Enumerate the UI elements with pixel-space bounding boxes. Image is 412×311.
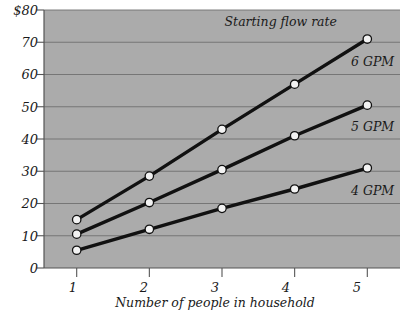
y-tick-label-80: $80 xyxy=(13,3,38,18)
data-point-marker xyxy=(290,185,298,193)
x-axis-title: Number of people in household xyxy=(114,295,315,310)
data-point-marker xyxy=(290,80,298,88)
data-point-marker xyxy=(72,246,80,254)
y-tick-label-70: 70 xyxy=(21,35,38,50)
starting-flow-rate-annotation: Starting flow rate xyxy=(225,14,337,29)
x-tick-label-5: 5 xyxy=(353,280,361,295)
y-tick-label-60: 60 xyxy=(21,67,38,82)
data-point-marker xyxy=(363,101,371,109)
data-point-marker xyxy=(72,215,80,223)
y-tick-marks xyxy=(37,10,44,268)
data-point-marker xyxy=(145,198,153,206)
data-point-marker xyxy=(145,172,153,180)
data-point-marker xyxy=(290,132,298,140)
x-tick-label-3: 3 xyxy=(211,280,219,295)
data-point-marker xyxy=(363,35,371,43)
x-tick-label-2: 2 xyxy=(139,280,148,295)
x-tick-label-4: 4 xyxy=(281,280,290,295)
data-point-marker xyxy=(145,225,153,233)
y-tick-label-50: 50 xyxy=(21,100,38,115)
series-label-5-gpm: 5 GPM xyxy=(351,119,395,134)
data-point-marker xyxy=(218,125,226,133)
y-tick-label-30: 30 xyxy=(21,164,38,179)
series-label-6-gpm: 6 GPM xyxy=(351,54,395,69)
y-tick-label-10: 10 xyxy=(21,229,38,244)
chart-container: $80 70 60 50 40 30 20 10 0 1 2 3 4 5 Num… xyxy=(0,0,412,311)
series-label-4-gpm: 4 GPM xyxy=(350,183,395,198)
y-tick-label-40: 40 xyxy=(20,132,38,147)
data-point-marker xyxy=(72,230,80,238)
x-tick-marks xyxy=(77,268,368,277)
y-tick-label-20: 20 xyxy=(20,196,38,211)
data-point-marker xyxy=(218,204,226,212)
y-tick-label-0: 0 xyxy=(30,261,38,276)
x-tick-label-1: 1 xyxy=(69,280,77,295)
data-point-marker xyxy=(218,165,226,173)
line-chart: $80 70 60 50 40 30 20 10 0 1 2 3 4 5 Num… xyxy=(0,0,412,311)
data-point-marker xyxy=(363,164,371,172)
